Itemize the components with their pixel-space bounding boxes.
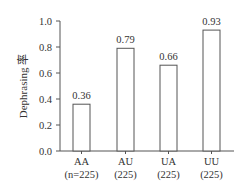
y-tick-label: 0.2 [39, 120, 52, 131]
x-tick-sublabel: (225) [157, 169, 180, 181]
bar-group-aa: 0.36 [72, 90, 90, 151]
bar [160, 65, 177, 151]
bar-value-label: 0.93 [202, 16, 220, 27]
chart-canvas: 0.00.20.40.60.81.0 AA(n=225)AU(225)UA(22… [0, 0, 248, 190]
bar-group-ua: 0.66 [159, 51, 177, 151]
y-tick-label: 1.0 [39, 16, 52, 27]
y-tick-label: 0.0 [39, 146, 52, 157]
bar-value-label: 0.79 [116, 34, 134, 45]
bar-value-label: 0.66 [159, 51, 177, 62]
bar-group-uu: 0.93 [202, 16, 220, 151]
bar [203, 30, 220, 151]
bar [117, 48, 134, 151]
y-tick-label: 0.6 [39, 68, 52, 79]
y-axis: 0.00.20.40.60.81.0 [39, 16, 60, 157]
x-tick-sublabel: (225) [200, 169, 223, 181]
y-tick-label: 0.4 [39, 94, 53, 105]
x-tick-sublabel: (n=225) [65, 169, 99, 181]
bars: 0.360.790.660.93 [72, 16, 220, 151]
y-axis-label: Dephrasing 率 [16, 54, 29, 118]
bar-group-au: 0.79 [116, 34, 134, 151]
bar-chart: 0.00.20.40.60.81.0 AA(n=225)AU(225)UA(22… [0, 0, 248, 190]
x-tick-sublabel: (225) [114, 169, 137, 181]
x-tick-label: AA [74, 156, 90, 167]
x-tick-label: UU [204, 156, 220, 167]
y-tick-label: 0.8 [39, 42, 52, 53]
x-axis: AA(n=225)AU(225)UA(225)UU(225) [60, 151, 234, 181]
x-tick-label: UA [161, 156, 177, 167]
bar [73, 104, 90, 151]
bar-value-label: 0.36 [72, 90, 90, 101]
x-tick-label: AU [118, 156, 134, 167]
